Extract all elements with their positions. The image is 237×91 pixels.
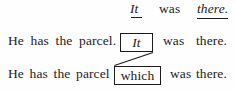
line3-tail-clause: was there. xyxy=(170,67,227,81)
line3-boxed-constituent-which: which xyxy=(114,66,161,85)
grammar-transformation-figure: It was there. He has the parcel. It was … xyxy=(0,0,237,91)
line2-lead-clause: He has the parcel. xyxy=(8,34,116,48)
line1-underline-it xyxy=(131,17,142,18)
line1-word-was: was xyxy=(159,2,180,16)
line1-word-there: there. xyxy=(197,2,228,16)
line2-boxed-label: It xyxy=(132,36,140,50)
line3-lead-clause: He has the parcel xyxy=(8,67,110,81)
line3-boxed-label: which xyxy=(121,69,155,83)
line1-underline-there xyxy=(197,18,228,19)
line2-word-was: was xyxy=(163,34,184,48)
line2-boxed-constituent-it: It xyxy=(120,33,153,52)
line2-word-there: there. xyxy=(196,34,227,48)
line1-word-it: It xyxy=(130,2,138,16)
